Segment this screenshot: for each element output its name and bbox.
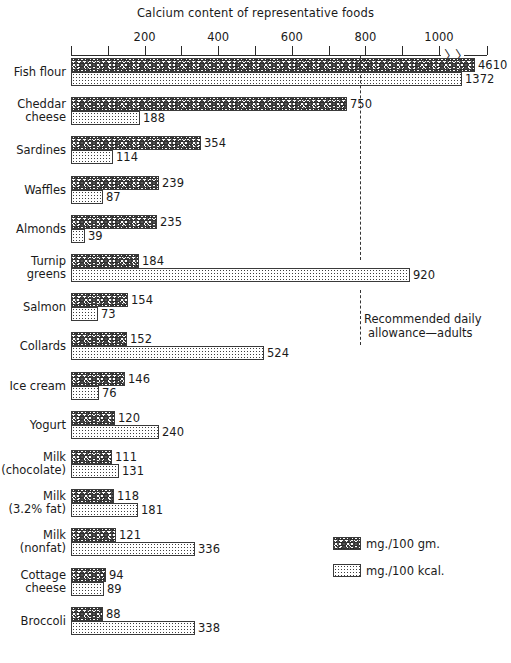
axis-label-1000: 1000 bbox=[424, 30, 453, 44]
bar-value-mg-per-100-gm: 354 bbox=[204, 136, 226, 150]
bar-mg-per-100-kcal bbox=[71, 464, 119, 478]
axis-end-cap bbox=[487, 46, 488, 55]
chart-title: Calcium content of representative foods bbox=[0, 6, 511, 20]
bar-value-mg-per-100-kcal: 131 bbox=[122, 464, 144, 478]
bar-mg-per-100-gm bbox=[71, 332, 127, 346]
bar-mg-per-100-kcal bbox=[71, 150, 113, 164]
bar-value-mg-per-100-kcal: 338 bbox=[198, 621, 220, 635]
axis-tick-600 bbox=[292, 46, 293, 55]
category-label-line2: (3.2% fat) bbox=[0, 503, 66, 516]
bar-value-mg-per-100-gm: 152 bbox=[130, 332, 152, 346]
category-label-line2: (chocolate) bbox=[0, 464, 66, 477]
bar-mg-per-100-kcal bbox=[71, 268, 410, 282]
category-label: Fish flour bbox=[0, 66, 66, 79]
category-label: Broccoli bbox=[0, 615, 66, 628]
legend-swatch-mg-per-100-kcal bbox=[333, 564, 361, 577]
bar-value-mg-per-100-kcal: 39 bbox=[88, 229, 103, 243]
bar-value-mg-per-100-gm: 239 bbox=[162, 176, 184, 190]
rda-line-upper bbox=[360, 55, 361, 260]
bar-mg-per-100-kcal bbox=[71, 307, 98, 321]
bar-value-mg-per-100-gm: 235 bbox=[160, 215, 182, 229]
bar-value-mg-per-100-gm: 4610 bbox=[478, 58, 507, 72]
bar-value-mg-per-100-gm: 118 bbox=[117, 489, 139, 503]
bar-value-mg-per-100-gm: 120 bbox=[118, 411, 140, 425]
axis-tick-500 bbox=[255, 46, 256, 55]
bar-mg-per-100-kcal bbox=[71, 621, 195, 635]
bar-value-mg-per-100-gm: 146 bbox=[128, 372, 150, 386]
bar-mg-per-100-kcal bbox=[71, 111, 140, 125]
bar-value-mg-per-100-gm: 111 bbox=[115, 450, 137, 464]
category-label: Collards bbox=[0, 340, 66, 353]
legend-swatch-mg-per-100-gm bbox=[333, 537, 361, 550]
bar-value-mg-per-100-kcal: 524 bbox=[267, 346, 289, 360]
category-label-line1: Sardines bbox=[0, 144, 66, 157]
bar-mg-per-100-gm bbox=[71, 607, 103, 621]
rda-line-lower bbox=[360, 290, 361, 345]
axis-label-800: 800 bbox=[354, 30, 376, 44]
bar-value-mg-per-100-kcal: 87 bbox=[106, 190, 121, 204]
bar-mg-per-100-gm bbox=[71, 450, 112, 464]
axis-label-600: 600 bbox=[281, 30, 303, 44]
axis-tick-200 bbox=[145, 46, 146, 55]
axis-tick-0 bbox=[71, 46, 72, 55]
category-label: Cheddarcheese bbox=[0, 98, 66, 124]
legend-label-mg-per-100-kcal: mg./100 kcal. bbox=[366, 564, 445, 578]
bar-mg-per-100-gm bbox=[71, 176, 159, 190]
axis-label-200: 200 bbox=[134, 30, 156, 44]
category-label: Milk(3.2% fat) bbox=[0, 490, 66, 516]
bar-mg-per-100-gm bbox=[71, 293, 128, 307]
rda-label-line1: Recommended daily bbox=[364, 312, 482, 326]
bar-value-mg-per-100-gm: 121 bbox=[119, 528, 141, 542]
axis-tick-1000 bbox=[439, 46, 440, 55]
axis-label-400: 400 bbox=[207, 30, 229, 44]
bar-value-mg-per-100-kcal: 920 bbox=[413, 268, 435, 282]
bar-mg-per-100-kcal bbox=[71, 425, 159, 439]
bar-value-mg-per-100-kcal: 336 bbox=[198, 542, 220, 556]
category-label: Salmon bbox=[0, 301, 66, 314]
bar-mg-per-100-gm bbox=[71, 58, 475, 72]
plot-area: Fish flour46101372Cheddarcheese750188Sar… bbox=[0, 55, 511, 655]
bar-value-mg-per-100-kcal: 89 bbox=[107, 582, 122, 596]
legend-label-mg-per-100-gm: mg./100 gm. bbox=[366, 537, 440, 551]
category-label: Cottagecheese bbox=[0, 569, 66, 595]
category-label-line1: Waffles bbox=[0, 184, 66, 197]
category-label-line2: cheese bbox=[0, 111, 66, 124]
bar-mg-per-100-kcal bbox=[71, 503, 138, 517]
bar-mg-per-100-gm bbox=[71, 97, 347, 111]
axis-tick-400 bbox=[218, 46, 219, 55]
rda-label-line2: allowance—adults bbox=[368, 326, 472, 340]
category-label-line1: Broccoli bbox=[0, 615, 66, 628]
bar-value-mg-per-100-gm: 94 bbox=[109, 568, 124, 582]
bar-mg-per-100-gm bbox=[71, 528, 116, 542]
axis-tick-900 bbox=[402, 46, 403, 55]
bar-value-mg-per-100-gm: 184 bbox=[142, 254, 164, 268]
bar-value-mg-per-100-kcal: 1372 bbox=[465, 72, 494, 86]
bar-mg-per-100-gm bbox=[71, 215, 157, 229]
bar-value-mg-per-100-kcal: 181 bbox=[141, 503, 163, 517]
bar-mg-per-100-kcal bbox=[71, 229, 85, 243]
bar-mg-per-100-kcal bbox=[71, 582, 104, 596]
bar-mg-per-100-gm bbox=[71, 372, 125, 386]
axis-tick-300 bbox=[181, 46, 182, 55]
bar-value-mg-per-100-kcal: 73 bbox=[101, 307, 116, 321]
axis-tick-100 bbox=[108, 46, 109, 55]
bar-value-mg-per-100-gm: 88 bbox=[106, 607, 121, 621]
bar-value-mg-per-100-kcal: 114 bbox=[116, 150, 138, 164]
category-label: Ice cream bbox=[0, 380, 66, 393]
category-label: Turnipgreens bbox=[0, 255, 66, 281]
category-label-line2: (nonfat) bbox=[0, 542, 66, 555]
bar-mg-per-100-gm bbox=[71, 568, 106, 582]
bar-value-mg-per-100-kcal: 188 bbox=[143, 111, 165, 125]
axis-tick-800 bbox=[365, 46, 366, 55]
category-label: Yogurt bbox=[0, 419, 66, 432]
category-label-line1: Collards bbox=[0, 340, 66, 353]
category-label-line1: Fish flour bbox=[0, 66, 66, 79]
bar-value-mg-per-100-kcal: 240 bbox=[162, 425, 184, 439]
bar-mg-per-100-kcal bbox=[71, 386, 99, 400]
category-label: Milk(nonfat) bbox=[0, 529, 66, 555]
category-label-line2: greens bbox=[0, 268, 66, 281]
bar-mg-per-100-kcal bbox=[71, 346, 264, 360]
bar-value-mg-per-100-gm: 154 bbox=[131, 293, 153, 307]
category-label-line2: cheese bbox=[0, 582, 66, 595]
category-label-line1: Almonds bbox=[0, 223, 66, 236]
